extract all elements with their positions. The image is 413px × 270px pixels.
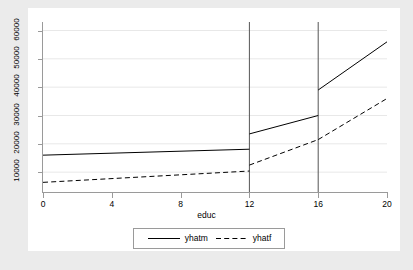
x-tick-12 bbox=[249, 193, 250, 198]
chart-legend: yhatm yhatf bbox=[133, 228, 285, 249]
legend-key-dashed-icon bbox=[215, 234, 249, 243]
x-tick-label-4: 4 bbox=[100, 199, 124, 209]
legend-entry-yhatf: yhatf bbox=[215, 234, 271, 243]
y-tick-10000 bbox=[38, 172, 43, 173]
series-yhatm-segment-0 bbox=[43, 149, 249, 155]
y-tick-20000 bbox=[38, 144, 43, 145]
y-tick-label-60000: 60000 bbox=[12, 9, 21, 49]
legend-label-yhatm: yhatm bbox=[185, 234, 208, 243]
x-tick-label-20: 20 bbox=[375, 199, 399, 209]
legend-entry-yhatm: yhatm bbox=[147, 234, 208, 243]
x-tick-16 bbox=[318, 193, 319, 198]
x-tick-label-16: 16 bbox=[306, 199, 330, 209]
x-tick-8 bbox=[181, 193, 182, 198]
y-tick-60000 bbox=[38, 31, 43, 32]
series-yhatf-segment-0 bbox=[43, 171, 249, 182]
x-tick-0 bbox=[43, 193, 44, 198]
y-axis-line bbox=[42, 22, 43, 193]
x-tick-label-8: 8 bbox=[169, 199, 193, 209]
x-axis-title: educ bbox=[0, 210, 413, 220]
y-tick-30000 bbox=[38, 116, 43, 117]
legend-label-yhatf: yhatf bbox=[253, 234, 271, 243]
y-tick-50000 bbox=[38, 59, 43, 60]
legend-key-solid-icon bbox=[147, 234, 181, 243]
plot-svg bbox=[43, 22, 387, 192]
x-tick-label-12: 12 bbox=[237, 199, 261, 209]
x-tick-label-0: 0 bbox=[31, 199, 55, 209]
series-yhatm-segment-2 bbox=[318, 42, 387, 90]
chart-figure: 100002000030000400005000060000048121620 … bbox=[0, 0, 413, 270]
plot-area bbox=[43, 22, 387, 192]
y-tick-40000 bbox=[38, 87, 43, 88]
x-tick-20 bbox=[387, 193, 388, 198]
x-axis-line bbox=[43, 192, 388, 193]
series-yhatf-segment-2 bbox=[318, 99, 387, 140]
series-yhatm-segment-1 bbox=[249, 116, 318, 134]
x-tick-4 bbox=[112, 193, 113, 198]
